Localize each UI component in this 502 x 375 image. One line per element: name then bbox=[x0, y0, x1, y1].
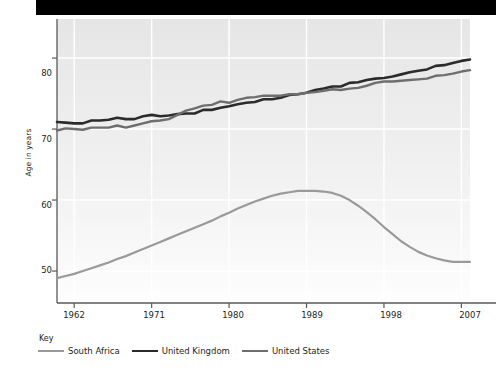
y-tick-label-60: 60 bbox=[30, 200, 52, 210]
y-tick-label-80: 80 bbox=[30, 68, 52, 78]
x-tick-label-1989: 1989 bbox=[292, 310, 332, 320]
legend-item-united-states: United States bbox=[242, 346, 330, 356]
x-tick-label-1971: 1971 bbox=[134, 310, 174, 320]
x-tick-label-1998: 1998 bbox=[371, 310, 411, 320]
legend-item-south-africa: South Africa bbox=[38, 346, 120, 356]
plot-area-wrapper: Age in years 80 70 60 50 1962 1971 1980 … bbox=[0, 0, 502, 375]
legend-line-swatch-icon bbox=[38, 350, 64, 352]
legend-item-united-kingdom: United Kingdom bbox=[132, 346, 230, 356]
legend-row: South Africa United Kingdom United State… bbox=[38, 346, 468, 356]
legend-label-united-states: United States bbox=[272, 346, 330, 356]
chart-figure: Age in years 80 70 60 50 1962 1971 1980 … bbox=[0, 0, 502, 375]
chart-legend: Key South Africa United Kingdom United S… bbox=[38, 334, 468, 356]
legend-line-swatch-icon bbox=[242, 350, 268, 352]
y-tick-label-70: 70 bbox=[30, 134, 52, 144]
x-tick-label-1980: 1980 bbox=[213, 310, 253, 320]
legend-title: Key bbox=[38, 334, 468, 343]
x-tick-label-2007: 2007 bbox=[450, 310, 490, 320]
y-axis-title: Age in years bbox=[24, 103, 33, 203]
legend-line-swatch-icon bbox=[132, 350, 158, 352]
legend-label-united-kingdom: United Kingdom bbox=[162, 346, 230, 356]
y-tick-label-50: 50 bbox=[30, 265, 52, 275]
x-tick-label-1962: 1962 bbox=[54, 310, 94, 320]
legend-label-south-africa: South Africa bbox=[68, 346, 120, 356]
